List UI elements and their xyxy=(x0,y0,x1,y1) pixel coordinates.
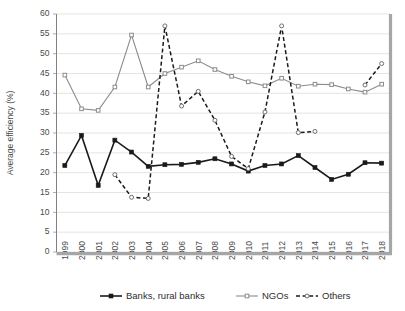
y-tick-label: 15 xyxy=(40,187,50,197)
legend-label-2: NGOs xyxy=(262,290,289,301)
axis-lines xyxy=(57,14,393,254)
marker-banks-rural-banks xyxy=(180,162,184,166)
series-line-banks-rural-banks xyxy=(65,135,382,185)
marker-banks-rural-banks xyxy=(213,157,217,161)
x-tick-label: 2018 xyxy=(377,241,387,260)
marker-others xyxy=(180,104,184,108)
marker-others xyxy=(363,83,367,87)
marker-others xyxy=(230,154,234,158)
marker-ngos xyxy=(213,68,217,72)
marker-banks-rural-banks xyxy=(263,164,267,168)
marker-banks-rural-banks xyxy=(296,154,300,158)
marker-ngos xyxy=(363,90,367,94)
y-tick-label: 25 xyxy=(40,147,50,157)
x-tick-label: 2007 xyxy=(194,241,204,260)
marker-banks-rural-banks xyxy=(96,183,100,187)
x-tick-label: 2008 xyxy=(210,241,220,260)
y-axis-title: Average efficiency (%) xyxy=(5,90,15,175)
y-tick-label: 20 xyxy=(40,167,50,177)
marker-others xyxy=(130,195,134,199)
y-tick-label: 10 xyxy=(40,207,50,217)
marker-others xyxy=(313,129,317,133)
marker-ngos xyxy=(280,76,284,80)
marker-ngos xyxy=(246,80,250,84)
marker-others xyxy=(196,89,200,93)
legend-label-1: Banks, rural banks xyxy=(126,290,205,301)
marker-banks-rural-banks xyxy=(346,172,350,176)
x-tick-label: 2005 xyxy=(160,241,170,260)
chart-legend: Banks, rural banksNGOsOthers xyxy=(100,290,351,301)
x-tick-label: 2000 xyxy=(77,241,87,260)
x-tick-label: 1999 xyxy=(60,241,70,260)
marker-ngos xyxy=(130,33,134,37)
marker-ngos xyxy=(380,82,384,86)
marker-others xyxy=(280,24,284,28)
chart-container: Average efficiency (%) 05101520253035404… xyxy=(0,0,405,311)
gridlines xyxy=(57,14,391,252)
x-axis-ticks: 1999200020012002200320042005200620072008… xyxy=(60,241,387,260)
marker-banks-rural-banks xyxy=(230,162,234,166)
marker-banks-rural-banks xyxy=(163,163,167,167)
marker-ngos xyxy=(296,84,300,88)
marker-banks-rural-banks xyxy=(63,164,67,168)
marker-others xyxy=(163,24,167,28)
marker-banks-rural-banks xyxy=(196,160,200,164)
x-tick-label: 2012 xyxy=(277,241,287,260)
x-tick-label: 2006 xyxy=(177,241,187,260)
x-tick-label: 2004 xyxy=(144,241,154,260)
x-tick-label: 2017 xyxy=(360,241,370,260)
x-tick-label: 2014 xyxy=(310,241,320,260)
marker-others xyxy=(263,110,267,114)
y-tick-label: 55 xyxy=(40,28,50,38)
marker-ngos xyxy=(263,84,267,88)
legend-marker-1 xyxy=(109,294,113,298)
y-axis-title-group: Average efficiency (%) xyxy=(5,90,15,175)
y-tick-label: 60 xyxy=(40,8,50,18)
x-tick-label: 2009 xyxy=(227,241,237,260)
marker-others xyxy=(296,131,300,135)
y-axis-ticks: 051015202530354045505560 xyxy=(40,8,56,256)
marker-banks-rural-banks xyxy=(80,133,84,137)
marker-others xyxy=(213,118,217,122)
x-tick-label: 2002 xyxy=(110,241,120,260)
legend-marker-2 xyxy=(245,294,249,298)
marker-ngos xyxy=(163,72,167,76)
y-tick-label: 50 xyxy=(40,48,50,58)
x-tick-label: 2010 xyxy=(244,241,254,260)
marker-ngos xyxy=(230,74,234,78)
marker-ngos xyxy=(113,85,117,89)
marker-ngos xyxy=(196,59,200,63)
marker-banks-rural-banks xyxy=(363,161,367,165)
marker-others xyxy=(380,62,384,66)
y-tick-label: 35 xyxy=(40,107,50,117)
marker-others xyxy=(113,173,117,177)
marker-ngos xyxy=(180,65,184,69)
marker-banks-rural-banks xyxy=(380,161,384,165)
marker-banks-rural-banks xyxy=(313,166,317,170)
x-tick-label: 2016 xyxy=(344,241,354,260)
series-markers xyxy=(63,24,384,201)
marker-banks-rural-banks xyxy=(146,164,150,168)
marker-ngos xyxy=(146,85,150,89)
y-tick-label: 0 xyxy=(45,246,50,256)
x-tick-label: 2001 xyxy=(94,241,104,260)
y-tick-label: 5 xyxy=(45,226,50,236)
y-tick-label: 40 xyxy=(40,88,50,98)
x-tick-label: 2013 xyxy=(294,241,304,260)
marker-ngos xyxy=(63,73,67,77)
x-tick-label: 2011 xyxy=(260,241,270,260)
y-tick-label: 45 xyxy=(40,68,50,78)
marker-ngos xyxy=(313,82,317,86)
x-tick-label: 2003 xyxy=(127,241,137,260)
legend-label-3: Others xyxy=(322,290,351,301)
marker-ngos xyxy=(80,107,84,111)
marker-ngos xyxy=(96,109,100,113)
y-tick-label: 30 xyxy=(40,127,50,137)
marker-banks-rural-banks xyxy=(280,162,284,166)
line-chart: Average efficiency (%) 05101520253035404… xyxy=(0,0,405,311)
legend-marker-3 xyxy=(305,294,309,298)
marker-banks-rural-banks xyxy=(130,150,134,154)
marker-ngos xyxy=(347,87,351,91)
series-line-ngos xyxy=(65,35,382,110)
marker-ngos xyxy=(330,83,334,87)
